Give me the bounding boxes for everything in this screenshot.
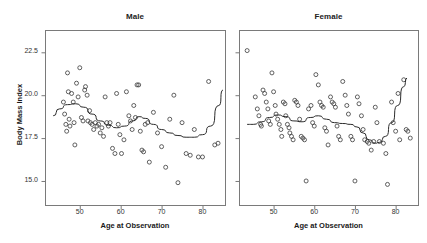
fit-curve bbox=[53, 90, 223, 137]
panel-male bbox=[42, 31, 226, 210]
panel-female bbox=[236, 31, 419, 210]
plot-canvas bbox=[0, 0, 427, 243]
scatter-plot-figure: Male Female Body Mass Index Age at Obser… bbox=[0, 0, 427, 243]
